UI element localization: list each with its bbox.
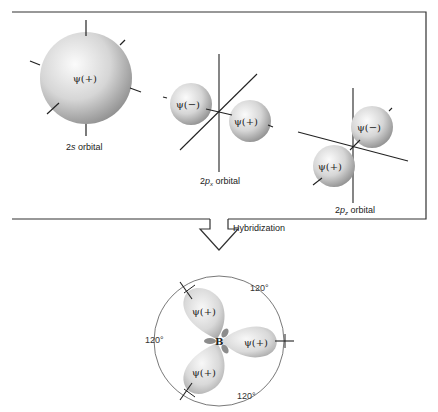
orbital-label-2px: 2px orbital <box>200 176 240 187</box>
orbital-2pz: ψ(−) ψ(+) 2pz orbital <box>298 88 408 216</box>
lobe-sign-2px-pos: ψ(+) <box>234 116 258 127</box>
orbital-label-2s: 2s orbital <box>66 142 103 152</box>
lobe-sign-2px-neg: ψ(−) <box>176 99 200 110</box>
hybrid-lobe-sign-3: ψ(+) <box>192 367 216 378</box>
lobe-sign-2pz-pos: ψ(+) <box>318 161 342 172</box>
hybrid-lobe-sign-1: ψ(+) <box>192 306 216 317</box>
center-atom: B <box>215 336 223 347</box>
angle-label-bottom: 120° <box>237 391 256 401</box>
angle-label-top: 120° <box>250 283 269 293</box>
orbital-label-2pz: 2pz orbital <box>335 205 375 216</box>
orbital-2px: ψ(−) ψ(+) 2px orbital <box>163 54 273 187</box>
orbital-diagram: Hybridization ψ(+) 2s orbital ψ(−) ψ(+) … <box>0 0 438 412</box>
hybridization-label: Hybridization <box>233 223 285 233</box>
angle-label-left: 120° <box>145 335 164 345</box>
hybrid-lobe-sign-2: ψ(+) <box>244 337 268 348</box>
orbital-2s: ψ(+) 2s orbital <box>30 20 141 152</box>
sp2-hybrid: B ψ(+) ψ(+) ψ(+) 120° 120° 120° <box>145 276 294 406</box>
lobe-sign-2s: ψ(+) <box>73 73 97 84</box>
lobe-sign-2pz-neg: ψ(−) <box>357 122 381 133</box>
